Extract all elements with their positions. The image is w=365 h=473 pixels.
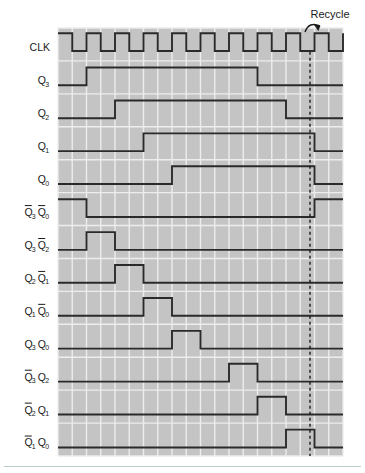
label-subscript: 0 <box>45 213 49 220</box>
label-subscript: 1 <box>32 311 36 318</box>
signal-label-Q2-Q1bar: Q2Q1 <box>24 271 49 285</box>
label-subscript: 0 <box>45 180 49 187</box>
label-subscript: 3 <box>32 344 36 351</box>
label-subscript: 2 <box>45 377 49 384</box>
signal-label-Q1: Q1 <box>38 140 49 154</box>
label-subscript: 3 <box>45 81 49 88</box>
label-subscript: 2 <box>45 114 49 121</box>
waveform-CLK <box>58 33 343 51</box>
label-subscript: 1 <box>45 147 49 154</box>
grid-lines <box>58 28 343 456</box>
label-subscript: 2 <box>32 410 36 417</box>
recycle-annotation-label: Recycle <box>310 8 349 20</box>
signal-label-text: CLK <box>30 41 50 53</box>
signal-label-Q2bar-Q1: Q2Q1 <box>24 403 49 417</box>
timing-diagram-figure: CLKQ3Q2Q1Q0Q3Q0Q3Q2Q2Q1Q1Q0Q3Q0Q3Q2Q2Q1Q… <box>0 0 365 473</box>
label-subscript: 0 <box>45 443 49 450</box>
signal-label-Q3: Q3 <box>38 74 49 88</box>
signal-label-Q3-Q2bar: Q3Q2 <box>24 239 49 253</box>
label-subscript: 2 <box>32 278 36 285</box>
signal-label-Q1bar-Q0: Q1Q0 <box>24 436 49 450</box>
label-subscript: 3 <box>32 377 36 384</box>
signal-label-Q0: Q0 <box>38 173 49 187</box>
label-subscript: 1 <box>45 410 49 417</box>
label-subscript: 1 <box>45 278 49 285</box>
signal-label-Q1-Q0bar: Q1Q0 <box>24 304 49 318</box>
signal-label-Q3-Q0: Q3Q0 <box>24 338 49 352</box>
label-subscript: 1 <box>32 443 36 450</box>
label-subscript: 2 <box>45 246 49 253</box>
label-subscript: 0 <box>45 311 49 318</box>
signal-label-Q3bar-Q2: Q3Q2 <box>24 370 49 384</box>
signal-label-CLK: CLK <box>30 41 50 53</box>
timing-diagram-canvas: CLKQ3Q2Q1Q0Q3Q0Q3Q2Q2Q1Q1Q0Q3Q0Q3Q2Q2Q1Q… <box>0 0 365 473</box>
page-bottom-rule <box>4 466 361 467</box>
label-subscript: 3 <box>32 246 36 253</box>
signal-label-Q2: Q2 <box>38 107 49 121</box>
label-subscript: 0 <box>45 344 49 351</box>
signal-label-Q3bar-Q0bar: Q3Q0 <box>24 206 49 220</box>
label-subscript: 3 <box>32 213 36 220</box>
